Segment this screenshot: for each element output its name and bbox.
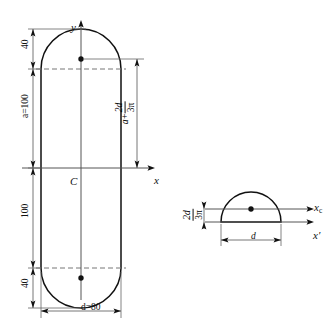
dimension-upper-straight-length-text: a=100 [21,94,31,118]
xc-axis-label-subscript: c [319,206,322,215]
y-axis [78,20,83,300]
xc-axis-label-text: xc [314,202,322,213]
centroid-label-text: C [70,176,77,187]
dimension-bottom-cap-height-text: 40 [21,279,31,289]
centroid-distance-term: a [120,120,130,125]
semicircle-centroid-offset-numerator: 2d [182,209,194,221]
semicircle-centroid-offset-fraction: 2d 3π [182,209,205,221]
centroid-distance-denominator: 3π [126,102,137,114]
x-axis [22,165,155,170]
lower-semicircle-centroid-dot [78,275,83,280]
centroid-distance-fraction: 2d 3π [114,102,137,114]
semicircle-centroid-offset-label: 2d 3π [182,209,205,221]
dimension-lower-straight-length-text: 100 [21,204,31,218]
drawing-canvas [0,0,329,325]
centroid-distance-operator: + [120,113,130,119]
centroid-distance-label: a + 2d 3π [114,102,137,125]
semicircle-centroid-dot [248,206,253,211]
dimension-top-cap-height-text: 40 [21,40,31,50]
xprime-axis-label-text: x′ [313,230,320,241]
semicircle-centroid-offset-denominator: 3π [194,209,205,221]
centroid-distance-numerator: 2d [114,102,126,114]
technical-drawing-figure: y x C 40 a=100 100 40 d=80 a + 2d 3π [0,0,329,325]
y-axis-label-text: y [71,22,76,33]
dimension-diameter-text: d [251,232,256,242]
xc-axis [205,206,314,211]
upper-semicircle-centroid-dot [78,56,83,61]
dimension-width-text: d=80 [81,303,101,313]
centroid-distance-expression: a + 2d 3π [114,102,137,125]
x-axis-label-text: x [154,175,159,186]
